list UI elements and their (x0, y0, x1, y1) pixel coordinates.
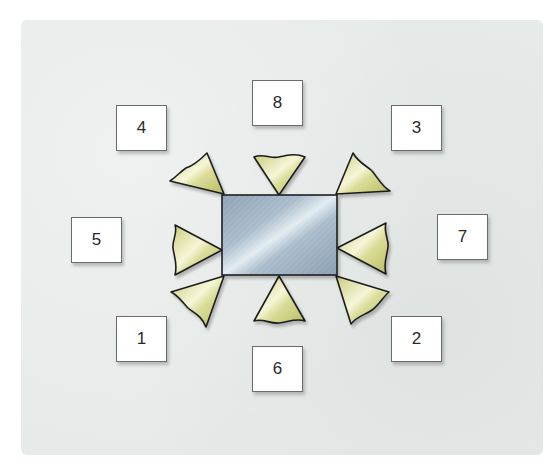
chair-top-center (254, 155, 305, 195)
seat-label-5: 5 (71, 217, 122, 263)
chair-bottom-left (171, 276, 224, 327)
seat-number: 5 (92, 230, 101, 250)
seat-number: 8 (273, 93, 282, 113)
chair-bottom-right (336, 276, 389, 324)
seat-label-7: 7 (437, 214, 488, 260)
seat-number: 3 (412, 118, 421, 138)
seat-label-3: 3 (391, 105, 442, 151)
seat-number: 2 (412, 329, 421, 349)
chair-right (337, 223, 388, 274)
chair-top-right (336, 153, 390, 194)
seat-label-6: 6 (252, 346, 303, 392)
seat-number: 7 (458, 227, 467, 247)
seat-label-4: 4 (116, 105, 167, 151)
seat-number: 4 (137, 118, 146, 138)
chair-bottom-center (254, 276, 305, 323)
seat-label-2: 2 (391, 316, 442, 362)
chair-left (173, 225, 222, 275)
chair-top-left (170, 153, 224, 194)
table (222, 195, 337, 275)
seat-label-1: 1 (116, 316, 167, 362)
seat-number: 1 (137, 329, 146, 349)
seat-label-8: 8 (252, 80, 303, 126)
seat-number: 6 (273, 359, 282, 379)
